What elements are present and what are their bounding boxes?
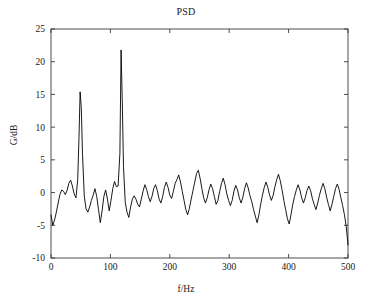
y-axis-label: G/dB xyxy=(9,105,19,165)
plot-area: -10-50510152025 0100200300400500 xyxy=(0,0,372,308)
y-tick-label: 0 xyxy=(40,188,45,198)
y-tick-label: 5 xyxy=(40,155,45,165)
y-tick-label: 15 xyxy=(36,90,46,100)
x-tick-label: 200 xyxy=(163,262,178,272)
psd-chart-figure: PSD -10-50510152025 0100200300400500 f/H… xyxy=(0,0,372,308)
x-tick-label: 300 xyxy=(222,262,237,272)
y-tick-label: 10 xyxy=(36,123,46,133)
x-tick-label: 500 xyxy=(341,262,356,272)
y-tick-label: -10 xyxy=(32,253,45,263)
y-tick-label: -5 xyxy=(37,221,45,231)
y-tick-label: 25 xyxy=(36,24,46,34)
y-tick-label: 20 xyxy=(36,57,46,67)
x-tick-label: 0 xyxy=(49,262,54,272)
x-axis-ticks: 0100200300400500 xyxy=(49,29,356,272)
psd-line-series xyxy=(51,50,348,245)
y-axis-ticks: -10-50510152025 xyxy=(32,24,348,263)
data-series-layer xyxy=(51,50,348,245)
axes-frame xyxy=(51,29,348,258)
x-axis-label: f/Hz xyxy=(0,284,372,294)
x-tick-label: 400 xyxy=(281,262,296,272)
x-tick-label: 100 xyxy=(103,262,118,272)
